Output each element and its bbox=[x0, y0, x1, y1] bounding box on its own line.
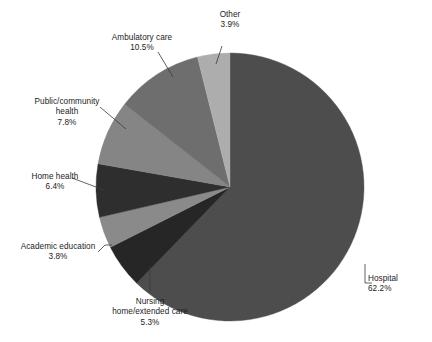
pie-chart-figure: Other 3.9% Ambulatory care 10.5% Public/… bbox=[0, 0, 432, 342]
slice-label-ambulatory-care: Ambulatory care 10.5% bbox=[90, 33, 194, 54]
slice-label-hospital: Hospital 62.2% bbox=[368, 274, 430, 295]
slice-label-hospital-name: Hospital bbox=[368, 274, 430, 284]
slice-label-ambulatory-care-value: 10.5% bbox=[90, 43, 194, 53]
slice-label-home-health-name: Home health bbox=[8, 172, 102, 182]
slice-label-home-health: Home health 6.4% bbox=[8, 172, 102, 193]
slice-label-nursing-home-extended-care-value: 5.3% bbox=[88, 318, 212, 328]
slice-label-ambulatory-care-name: Ambulatory care bbox=[90, 33, 194, 43]
slice-label-academic-education: Academic education 3.8% bbox=[2, 242, 114, 263]
slice-label-other-name: Other bbox=[200, 10, 260, 20]
slice-label-public-community-health-name-2: health bbox=[12, 107, 122, 117]
slice-label-public-community-health: Public/community health 7.8% bbox=[12, 97, 122, 128]
slice-label-other-value: 3.9% bbox=[200, 20, 260, 30]
slice-label-hospital-value: 62.2% bbox=[368, 284, 430, 294]
pie-slices-group bbox=[96, 53, 364, 321]
slice-label-nursing-home-extended-care-name-1: Nursing bbox=[88, 297, 212, 307]
slice-label-public-community-health-value: 7.8% bbox=[12, 118, 122, 128]
slice-label-other: Other 3.9% bbox=[200, 10, 260, 31]
slice-label-home-health-value: 6.4% bbox=[8, 182, 102, 192]
slice-label-public-community-health-name-1: Public/community bbox=[12, 97, 122, 107]
slice-label-nursing-home-extended-care-name-2: home/extended care bbox=[88, 307, 212, 317]
slice-label-academic-education-value: 3.8% bbox=[2, 252, 114, 262]
slice-label-academic-education-name: Academic education bbox=[2, 242, 114, 252]
slice-label-nursing-home-extended-care: Nursing home/extended care 5.3% bbox=[88, 297, 212, 328]
